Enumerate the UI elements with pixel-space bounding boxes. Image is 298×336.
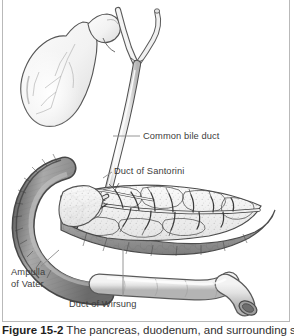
figure-caption-body: The pancreas, duodenum, and surrounding … (66, 324, 294, 336)
gallbladder-highlight (21, 22, 97, 126)
label-common-bile-duct: Common bile duct (143, 131, 220, 142)
figure-caption: Figure 15-2 The pancreas, duodenum, and … (2, 324, 294, 336)
label-duct-of-santorini: Duct of Santorini (114, 166, 184, 177)
label-duct-of-wirsung: Duct of Wirsung (69, 299, 137, 310)
duct-terminal-nub (154, 9, 159, 13)
figure-frame: Common bile duct Duct of Santorini Duct … (2, 0, 290, 322)
label-ampulla-line1: Ampulla (11, 267, 45, 277)
figure-caption-text: Figure 15-2 The pancreas, duodenum, and … (2, 324, 294, 336)
left-hepatic-duct-lumen (118, 10, 137, 66)
gallbladder-group (21, 22, 97, 126)
figure-caption-number: Figure 15-2 (2, 324, 63, 336)
hepatic-duct-tree (118, 9, 160, 66)
figure-root: Common bile duct Duct of Santorini Duct … (0, 0, 298, 336)
label-ampulla-of-vater: Ampulla of Vater (11, 267, 71, 290)
label-ampulla-line2: of Vater (11, 279, 44, 289)
